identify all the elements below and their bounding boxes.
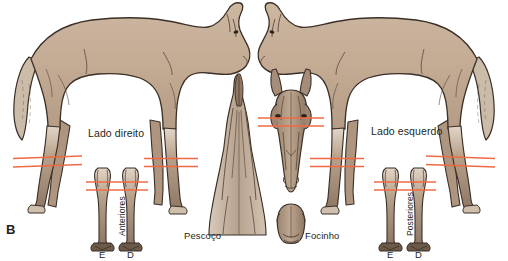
label-posteriores: Posteriores (406, 192, 415, 236)
label-forelimb-right-d: D (127, 250, 134, 260)
label-hindlimb-right-d: D (415, 250, 422, 260)
label-anteriores: Anteriores (118, 196, 127, 236)
label-focinho: Focinho (305, 231, 340, 241)
panel-label-b: B (6, 223, 16, 236)
label-forelimb-left-e: E (99, 250, 105, 260)
muzzle-frontal-view (277, 204, 305, 244)
label-lado-direito: Lado direito (88, 128, 144, 139)
label-pescoco: Pescoço (184, 231, 221, 241)
label-hindlimb-left-e: E (387, 250, 393, 260)
horse-conformation-figure: B Lado direito Lado esquerdo Pescoço Foc… (0, 0, 508, 261)
label-lado-esquerdo: Lado esquerdo (371, 126, 442, 137)
